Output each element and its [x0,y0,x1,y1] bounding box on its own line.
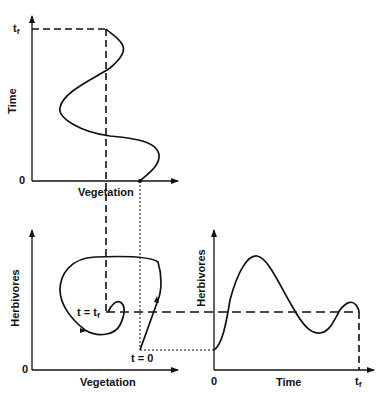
top-x-axis-label: Vegetation [78,186,134,198]
phase-trajectory-loop [60,257,161,350]
bottom-right-x-axis-label: Time [276,376,301,388]
top-tf-dashed-lines [32,29,106,312]
phase-diagram-canvas [0,0,385,393]
herbivores-time-curve [214,256,359,350]
end-state-label: t = tf [77,306,100,320]
bottom-right-y-axis-label: Herbivores [195,249,207,306]
vegetation-time-curve [60,29,159,181]
top-y-axis-label: Time [6,88,18,113]
bottom-left-y-axis-label: Herbivores [9,269,21,326]
top-tf-tick: tf [13,22,19,36]
top-origin-tick: 0 [19,174,25,186]
bottom-left-x-axis-label: Vegetation [80,376,136,388]
top-panel-axes [32,16,178,181]
bottom-right-tf-tick: tf [355,375,361,389]
bottom-left-origin-tick: 0 [22,363,28,375]
start-state-label: t = 0 [131,352,153,364]
bottom-right-axes [214,230,374,370]
bottom-right-origin-tick: 0 [211,375,217,387]
